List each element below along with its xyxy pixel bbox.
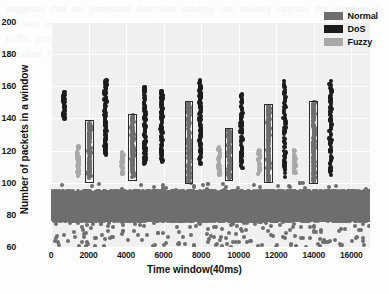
data-point-normal (156, 231, 160, 235)
data-point-normal (91, 222, 95, 226)
x-tick-label: 14000 (302, 250, 325, 260)
data-point-dos (239, 100, 243, 104)
data-point-normal (93, 244, 97, 247)
data-point-normal (148, 218, 152, 222)
data-point-dos (103, 79, 107, 83)
data-point-normal (257, 220, 261, 224)
data-point-dos (199, 133, 203, 137)
data-point-normal (174, 188, 178, 192)
data-point-normal (151, 244, 155, 247)
data-point-dos (143, 116, 147, 120)
data-point-normal (99, 222, 103, 226)
x-tick-label: 10000 (227, 250, 250, 260)
y-tick-label: 120 (0, 146, 16, 156)
legend-label-fuzzy: Fuzzy (348, 37, 373, 47)
data-point-normal (289, 242, 293, 246)
data-point-normal (301, 236, 305, 240)
data-point-normal (359, 228, 363, 232)
x-tick-label: 2000 (79, 250, 97, 260)
y-tick-label: 180 (0, 49, 16, 59)
data-point-normal (224, 236, 228, 240)
data-point-normal (80, 225, 84, 229)
data-point-normal (229, 245, 233, 247)
annotation-box (85, 120, 93, 183)
data-point-normal (236, 186, 240, 190)
data-point-normal (215, 242, 219, 246)
data-point-normal (138, 223, 142, 227)
data-point-dos (62, 97, 66, 101)
data-point-normal (188, 225, 192, 229)
data-point-normal (327, 185, 331, 189)
data-point-normal (299, 225, 303, 229)
data-point-normal (139, 183, 143, 187)
data-point-normal (72, 230, 76, 234)
data-point-dos (239, 163, 243, 167)
data-point-normal (54, 222, 58, 226)
data-point-dos (240, 106, 244, 110)
data-point-normal (301, 181, 305, 185)
data-point-fuzzy (258, 149, 262, 153)
data-point-dos (142, 90, 146, 94)
data-point-normal (106, 229, 110, 233)
legend-swatch-normal (324, 12, 343, 20)
data-point-fuzzy (216, 147, 220, 151)
annotation-box (185, 101, 194, 185)
data-point-normal (206, 182, 210, 186)
data-point-normal (73, 235, 77, 239)
data-point-normal (224, 185, 228, 189)
data-point-normal (308, 236, 312, 240)
data-point-normal (132, 229, 136, 233)
data-point-normal (368, 202, 370, 206)
data-point-dos (239, 93, 243, 97)
y-tick-label: 100 (0, 178, 16, 188)
data-point-normal (102, 244, 106, 247)
data-point-normal (361, 222, 365, 226)
data-point-normal (271, 234, 275, 238)
y-tick-label: 200 (0, 17, 16, 27)
x-tick-label: 4000 (117, 250, 135, 260)
data-point-normal (181, 235, 185, 239)
x-tick-label: 12000 (265, 250, 288, 260)
x-tick-label: 16000 (340, 250, 363, 260)
data-point-dos (143, 124, 147, 128)
data-point-normal (219, 235, 223, 239)
legend-item-normal: Normal (324, 11, 378, 21)
legend-item-fuzzy: Fuzzy (324, 37, 378, 47)
data-point-normal (261, 226, 265, 230)
y-tick-label: 80 (0, 210, 16, 220)
data-point-normal (367, 224, 370, 228)
data-point-normal (100, 233, 104, 237)
legend-item-dos: DoS (324, 24, 378, 34)
data-point-dos (329, 114, 333, 118)
data-point-normal (334, 184, 338, 188)
data-point-normal (60, 183, 64, 187)
data-point-normal (276, 184, 280, 188)
data-point-normal (136, 233, 140, 237)
annotation-box (309, 101, 318, 185)
data-point-fuzzy (120, 156, 124, 160)
data-point-dos (282, 129, 286, 133)
data-point-normal (278, 223, 282, 227)
data-point-normal (126, 238, 130, 242)
data-point-normal (140, 238, 144, 242)
data-point-normal (343, 227, 347, 231)
data-point-normal (66, 239, 70, 243)
data-point-normal (111, 225, 115, 229)
data-point-normal (316, 219, 320, 223)
data-point-dos (143, 129, 147, 133)
annotation-box (264, 104, 273, 183)
data-point-dos (160, 113, 164, 117)
y-gridline (51, 86, 370, 87)
data-point-dos (104, 125, 108, 129)
legend-swatch-dos (324, 25, 343, 33)
data-point-normal (269, 224, 273, 228)
data-point-normal (176, 242, 180, 246)
data-point-normal (142, 224, 146, 228)
data-point-normal (263, 219, 267, 223)
data-point-normal (227, 231, 231, 235)
data-point-dos (159, 156, 163, 160)
plot-area (51, 22, 370, 247)
data-point-dos (240, 128, 244, 132)
data-point-dos (283, 175, 287, 179)
y-gridline (51, 151, 370, 152)
